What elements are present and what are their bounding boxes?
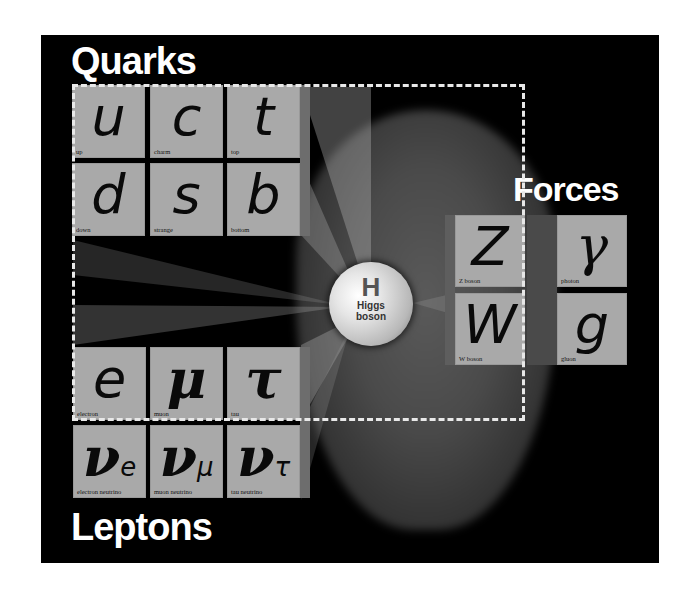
particle-symbol: νμ (150, 427, 223, 497)
higgs-name-line2: boson (329, 311, 413, 322)
particle-symbol: g (557, 295, 627, 355)
particle-symbol: νe (73, 427, 146, 497)
leptons-label: Leptons (71, 505, 212, 549)
particle-name: photon (561, 277, 579, 284)
particle-tile-muon-neutrino: νμ muon neutrino (150, 425, 223, 498)
particle-tile-photon: γ photon (557, 215, 627, 287)
dashed-boundary (72, 84, 525, 421)
particle-name: muon neutrino (154, 488, 192, 495)
higgs-boson-sphere: H Higgs boson (329, 262, 413, 346)
forces-label: Forces (513, 169, 619, 209)
particle-subscript: τ (274, 452, 290, 482)
standard-model-diagram: Quarks u up c charm t top d down s stran… (41, 35, 659, 563)
particle-subscript: μ (197, 452, 214, 482)
quarks-label: Quarks (71, 39, 196, 83)
particle-name: tau neutrino (231, 488, 262, 495)
particle-symbol: γ (557, 217, 627, 277)
particle-name: electron neutrino (77, 488, 121, 495)
particle-tile-tau-neutrino: ντ tau neutrino (227, 425, 300, 498)
particle-subscript: e (120, 452, 136, 482)
higgs-name-line1: Higgs (329, 300, 413, 311)
particle-tile-gluon: g gluon (557, 293, 627, 365)
particle-symbol: ντ (227, 427, 300, 497)
particle-name: gluon (561, 355, 576, 362)
force-block-side-right (527, 215, 557, 365)
higgs-symbol: H (329, 274, 413, 300)
particle-tile-electron-neutrino: νe electron neutrino (73, 425, 146, 498)
